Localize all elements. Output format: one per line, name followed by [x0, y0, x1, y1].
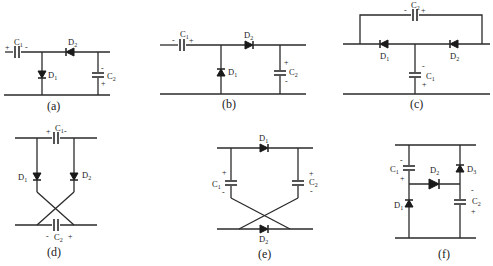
- label-d2: D2: [450, 51, 459, 62]
- subfigure-b: - C1 + D2 D1 + C2 - (b): [160, 29, 306, 111]
- label-d2: D2: [82, 170, 91, 181]
- polarity-mark: -: [422, 62, 425, 71]
- diode-d2: [429, 179, 439, 189]
- polarity-mark: +: [222, 168, 227, 177]
- polarity-mark: +: [422, 80, 427, 89]
- capacitor-c1: [409, 72, 421, 78]
- polarity-mark: -: [310, 187, 313, 196]
- label-d1: D1: [228, 67, 237, 78]
- diode-d2: [70, 173, 78, 180]
- polarity-mark: -: [285, 77, 288, 86]
- capacitor-c2: [292, 180, 304, 186]
- label-d3: D3: [467, 164, 476, 175]
- label-c1: C1: [14, 37, 23, 48]
- diode-d3: [456, 165, 464, 172]
- label-c2: C2: [107, 71, 116, 82]
- caption-a: (a): [47, 99, 60, 113]
- label-c2: C2: [289, 67, 298, 78]
- label-d2: D2: [68, 37, 77, 48]
- capacitor-c2: [454, 199, 466, 205]
- subfigure-d: + C1 - D1 D2 - C2 + (d): [15, 123, 97, 259]
- polarity-mark: -: [64, 127, 67, 136]
- capacitor-c2: [274, 70, 286, 76]
- polarity-mark: -: [222, 188, 225, 197]
- caption-b: (b): [222, 97, 236, 111]
- polarity-mark: +: [421, 6, 426, 15]
- diode-d2: [260, 225, 268, 233]
- polarity-mark: +: [471, 207, 476, 216]
- label-d2: D2: [259, 234, 268, 245]
- diode-d1: [260, 144, 268, 152]
- caption-d: (d): [47, 245, 61, 259]
- label-c1: C1: [180, 29, 189, 40]
- caption-f: (f): [438, 247, 450, 261]
- polarity-mark: -: [471, 186, 474, 195]
- diode-d2: [66, 48, 74, 56]
- subfigure-e: D1 + C1 - + C2 - D2 (e): [212, 133, 318, 261]
- label-c1: C1: [55, 123, 64, 134]
- capacitor-c2: [52, 219, 60, 231]
- polarity-mark: -: [46, 232, 49, 241]
- polarity-mark: +: [284, 58, 289, 67]
- capacitor-c1: [403, 165, 415, 171]
- label-c2: C2: [411, 0, 420, 11]
- polarity-mark: -: [172, 36, 175, 45]
- label-d2: D2: [244, 30, 253, 41]
- polarity-mark: -: [404, 6, 407, 15]
- polarity-mark: +: [189, 36, 194, 45]
- polarity-mark: +: [5, 43, 10, 52]
- subfigure-f: - C1 + D1 D2 D3 - C2 + (f): [390, 145, 481, 261]
- label-c1: C1: [426, 71, 435, 82]
- polarity-mark: +: [46, 127, 51, 136]
- polarity-mark: +: [68, 232, 73, 241]
- polarity-mark: -: [400, 156, 403, 165]
- label-c2: C2: [472, 196, 481, 207]
- label-d1: D1: [394, 200, 403, 211]
- diode-d1: [33, 173, 41, 180]
- diode-d1: [405, 200, 413, 207]
- label-c1: C1: [390, 164, 399, 175]
- caption-c: (c): [410, 97, 423, 111]
- polarity-mark: -: [25, 43, 28, 52]
- capacitor-c1: [178, 39, 186, 51]
- subfigure-a: + C1 - D2 D1 - C2 + (a): [4, 37, 116, 113]
- label-d2: D2: [430, 165, 439, 176]
- circuit-figure: + C1 - D2 D1 - C2 + (a): [0, 0, 493, 266]
- diode-d2: [245, 41, 253, 49]
- capacitor-c1: [225, 180, 237, 186]
- label-d1: D1: [259, 133, 268, 144]
- polarity-mark: +: [400, 174, 405, 183]
- polarity-mark: +: [101, 79, 106, 88]
- diode-d1: [38, 71, 46, 78]
- diode-d1: [217, 69, 225, 76]
- label-d1: D1: [18, 172, 27, 183]
- label-d1: D1: [380, 51, 389, 62]
- diode-d2: [450, 40, 458, 48]
- caption-e: (e): [258, 247, 271, 261]
- label-d1: D1: [48, 70, 57, 81]
- capacitor-c1: [52, 132, 60, 144]
- label-c1: C1: [212, 179, 221, 190]
- label-c2: C2: [54, 232, 63, 243]
- diode-d1: [380, 40, 388, 48]
- polarity-mark: -: [101, 64, 104, 73]
- subfigure-c: - C2 + D1 D2 - C1 + (c): [343, 0, 490, 111]
